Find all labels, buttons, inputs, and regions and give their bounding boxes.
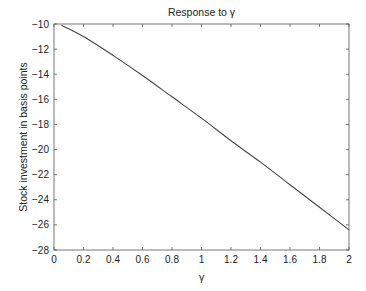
y-tick-label: −22 (32, 169, 49, 180)
x-tick-label: 0 (51, 254, 57, 265)
line-chart: Response to γ 00.20.40.60.811.21.41.61.8… (0, 0, 366, 291)
plot-frame (54, 24, 349, 250)
y-tick-label: −16 (32, 94, 49, 105)
x-axis-label: γ (199, 271, 205, 283)
x-tick-label: 0.8 (165, 254, 179, 265)
y-tick-label: −24 (32, 194, 49, 205)
x-tick-label: 2 (346, 254, 352, 265)
y-tick-label: −12 (32, 44, 49, 55)
x-tick-label: 1 (199, 254, 205, 265)
x-tick-label: 0.4 (106, 254, 120, 265)
y-tick-label: −26 (32, 219, 49, 230)
x-tick-label: 1.8 (313, 254, 327, 265)
y-tick-label: −18 (32, 119, 49, 130)
y-axis-label: Stock investment in basis points (17, 62, 29, 211)
chart-title: Response to γ (168, 6, 236, 18)
x-tick-label: 0.2 (77, 254, 91, 265)
y-tick-label: −28 (32, 245, 49, 256)
x-tick-label: 0.6 (136, 254, 150, 265)
y-tick-label: −14 (32, 69, 49, 80)
x-tick-label: 1.6 (283, 254, 297, 265)
y-tick-label: −10 (32, 19, 49, 30)
y-tick-label: −20 (32, 144, 49, 155)
x-tick-label: 1.2 (224, 254, 238, 265)
x-tick-label: 1.4 (254, 254, 268, 265)
